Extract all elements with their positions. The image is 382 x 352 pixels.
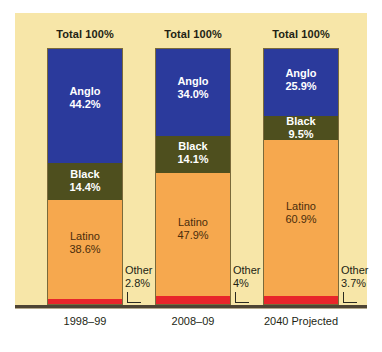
segment-label-anglo: Anglo <box>48 85 122 98</box>
other-callout-2040-projected: Other 3.7% <box>341 264 382 289</box>
segment-label-black: Black <box>156 140 230 153</box>
other-leader-line-2040-projected <box>343 292 357 303</box>
segment-label-latino: Latino <box>156 216 230 229</box>
other-leader-line-1998-99 <box>127 292 141 303</box>
segment-black-2040-projected[interactable]: Black 9.5% <box>264 116 338 140</box>
segment-anglo-2040-projected[interactable]: Anglo 25.9% <box>264 49 338 116</box>
other-label: Other <box>341 264 382 277</box>
segment-value-anglo: 44.2% <box>48 98 122 111</box>
bar-group-1998-99: Total 100% Anglo 44.2% Black 14.4% Latin… <box>47 0 123 352</box>
bar-group-2008-09: Total 100% Anglo 34.0% Black 14.1% Latin… <box>155 0 231 352</box>
total-label-2040-projected: Total 100% <box>263 28 339 40</box>
segment-latino-1998-99[interactable]: Latino 38.6% <box>48 200 122 299</box>
segment-other-2008-09[interactable] <box>156 296 230 305</box>
segment-value-black: 14.1% <box>156 153 230 166</box>
x-axis-label-2008-09: 2008–09 <box>155 315 231 327</box>
bar-stack-2040-projected[interactable]: Anglo 25.9% Black 9.5% Latino 60.9% <box>263 48 339 305</box>
total-label-2008-09: Total 100% <box>155 28 231 40</box>
segment-other-1998-99[interactable] <box>48 299 122 305</box>
segment-value-anglo: 34.0% <box>156 88 230 101</box>
segment-label-anglo: Anglo <box>156 75 230 88</box>
bar-stack-2008-09[interactable]: Anglo 34.0% Black 14.1% Latino 47.9% <box>155 48 231 305</box>
total-label-1998-99: Total 100% <box>47 28 123 40</box>
segment-value-latino: 47.9% <box>156 229 230 242</box>
x-axis-label-1998-99: 1998–99 <box>47 315 123 327</box>
segment-label-latino: Latino <box>48 230 122 243</box>
segment-label-anglo: Anglo <box>264 67 338 80</box>
segment-value-black: 14.4% <box>48 181 122 194</box>
segment-value-latino: 38.6% <box>48 243 122 256</box>
segment-black-1998-99[interactable]: Black 14.4% <box>48 163 122 200</box>
bar-group-2040-projected: Total 100% Anglo 25.9% Black 9.5% Latino… <box>263 0 339 352</box>
segment-latino-2008-09[interactable]: Latino 47.9% <box>156 173 230 296</box>
segment-other-2040-projected[interactable] <box>264 296 338 305</box>
segment-value-black: 9.5% <box>264 128 338 140</box>
segment-label-black: Black <box>48 168 122 181</box>
bar-stack-1998-99[interactable]: Anglo 44.2% Black 14.4% Latino 38.6% <box>47 48 123 305</box>
segment-anglo-2008-09[interactable]: Anglo 34.0% <box>156 49 230 136</box>
segment-latino-2040-projected[interactable]: Latino 60.9% <box>264 140 338 297</box>
segment-black-2008-09[interactable]: Black 14.1% <box>156 136 230 172</box>
other-leader-line-2008-09 <box>235 292 249 303</box>
stacked-bar-chart: Total 100% Anglo 44.2% Black 14.4% Latin… <box>0 0 382 352</box>
segment-value-anglo: 25.9% <box>264 80 338 93</box>
segment-anglo-1998-99[interactable]: Anglo 44.2% <box>48 49 122 163</box>
segment-label-black: Black <box>264 116 338 128</box>
other-value: 3.7% <box>341 277 382 290</box>
segment-label-latino: Latino <box>264 200 338 213</box>
segment-value-latino: 60.9% <box>264 213 338 226</box>
x-axis-label-2040-projected: 2040 Projected <box>263 315 339 327</box>
